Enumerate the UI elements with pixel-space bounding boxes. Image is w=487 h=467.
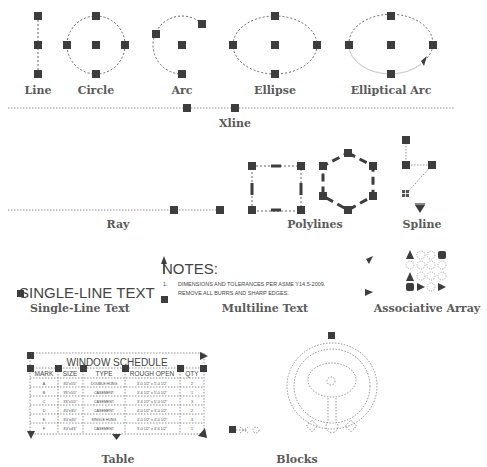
grip-icon[interactable] (402, 136, 410, 144)
grip-icon[interactable] (229, 41, 237, 49)
grip-icon[interactable] (152, 30, 160, 38)
grip-icon[interactable] (121, 41, 129, 49)
label-table: Table (101, 453, 134, 466)
multiline-text-object[interactable]: NOTES: 1. DIMENSIONS AND TOLERANCES PER … (161, 256, 373, 315)
grip-icon[interactable] (177, 365, 184, 372)
line-object[interactable]: Line (25, 12, 52, 97)
grip-icon[interactable] (216, 206, 224, 214)
arrow-down-grip-icon[interactable] (27, 431, 35, 439)
grip-icon[interactable] (406, 272, 414, 281)
grip-icon[interactable] (198, 20, 206, 28)
grip-icon[interactable] (438, 251, 446, 259)
arrow-right-grip-icon[interactable] (365, 289, 373, 296)
arrow-grip-icon[interactable] (421, 56, 427, 66)
grip-icon[interactable] (271, 12, 279, 20)
grip-icon[interactable] (92, 41, 100, 49)
label-xline: Xline (219, 117, 251, 130)
blocks-object[interactable]: Blocks (229, 332, 377, 466)
table-cell: 3'0"x4'0" (63, 418, 77, 422)
mtext-line1: DIMENSIONS AND TOLERANCES PER ASME Y14.5… (178, 281, 326, 287)
grip-icon[interactable] (161, 296, 168, 303)
grip-icon[interactable] (178, 41, 186, 49)
polyline-rectangle-object[interactable] (248, 162, 305, 214)
grip-icon[interactable] (229, 426, 236, 433)
table-object[interactable]: WINDOW SCHEDULE MARK SIZE TYPE ROUGH OPE… (27, 352, 208, 466)
grip-icon[interactable] (313, 41, 321, 49)
table-cell: SINGLE HUNG (92, 418, 117, 422)
grip-icon[interactable] (34, 41, 42, 49)
grip-icon[interactable] (387, 70, 395, 78)
grip-icon[interactable] (297, 206, 305, 214)
table-cell: D (43, 409, 46, 413)
table-cell: 4'-0 1/2" x 3'-0 1/2" (137, 409, 168, 413)
grip-icon[interactable] (344, 206, 352, 214)
table-cell: 1 (191, 427, 193, 431)
grip-icon[interactable] (55, 365, 62, 372)
grip-icon[interactable] (34, 12, 42, 20)
grip-icon[interactable] (402, 161, 410, 169)
resize-grip-icon[interactable] (198, 428, 207, 438)
circle-object[interactable]: Circle (63, 12, 129, 97)
grip-icon[interactable] (428, 161, 436, 169)
grip-icon[interactable] (417, 283, 425, 291)
grip-icon[interactable] (92, 12, 100, 20)
grip-icon[interactable] (200, 365, 207, 372)
label-blocks: Blocks (276, 453, 317, 466)
grip-icon[interactable] (231, 104, 239, 112)
label-arc: Arc (170, 84, 192, 97)
grip-icon[interactable] (271, 70, 279, 78)
grip-icon[interactable] (271, 41, 279, 49)
grip-icon[interactable] (429, 41, 437, 49)
table-cell: DOUBLE HUNG (91, 382, 118, 386)
triangle-grip-icon[interactable] (415, 205, 425, 213)
grip-icon[interactable] (319, 162, 327, 170)
grip-icon[interactable] (319, 192, 327, 200)
table-cell: 2 (191, 409, 193, 413)
grip-icon[interactable] (122, 365, 129, 372)
table-cell: F (43, 427, 46, 431)
elliptical-arc-object[interactable]: Elliptical Arc (345, 12, 437, 97)
associative-array-object[interactable]: Associative Array (373, 250, 481, 315)
grip-icon[interactable] (80, 365, 87, 372)
single-line-text-object[interactable]: SINGLE-LINE TEXT Single-Line Text (17, 284, 155, 315)
grip-icon[interactable] (63, 41, 71, 49)
grip-icon[interactable] (438, 283, 446, 291)
table-cell: B (43, 391, 46, 395)
grip-icon[interactable] (34, 70, 42, 78)
arrow-grip-icon[interactable] (366, 256, 373, 264)
table-header: TYPE (96, 370, 114, 377)
grip-icon[interactable] (248, 206, 256, 214)
grip-icon[interactable] (297, 162, 305, 170)
grip-icon[interactable] (183, 104, 191, 112)
grip-icon[interactable] (27, 365, 34, 372)
table-cell: 3'6"x5'0" (63, 400, 77, 404)
grip-icon[interactable] (387, 41, 395, 49)
grip-icon[interactable] (328, 332, 335, 339)
table-cell: E (43, 418, 46, 422)
grip-icon[interactable] (248, 162, 256, 170)
autocad-object-gallery: Line Circle Arc Ellipse (0, 0, 487, 467)
grip-icon[interactable] (17, 290, 24, 297)
grip-icon[interactable] (369, 192, 377, 200)
ray-object[interactable]: Ray (8, 206, 224, 231)
arc-object[interactable]: Arc (152, 16, 206, 97)
grip-icon[interactable] (178, 70, 186, 78)
ellipse-object[interactable]: Ellipse (229, 12, 321, 97)
mtext-line1-number: 1. (163, 281, 168, 287)
grip-icon[interactable] (345, 41, 353, 49)
arrow-down-grip-icon[interactable] (112, 434, 121, 440)
spline-object[interactable]: Spline (402, 136, 442, 231)
table-cell: CASEMENT (94, 409, 115, 413)
grip-icon[interactable] (170, 206, 178, 214)
xline-object[interactable]: Xline (8, 104, 455, 130)
label-polylines: Polylines (287, 218, 342, 231)
grip-icon[interactable] (92, 70, 100, 78)
table-cell: 3'-6 1/2" x 5'-0 1/2" (137, 400, 168, 404)
grip-icon[interactable] (27, 352, 34, 359)
grip-icon[interactable] (387, 12, 395, 20)
grip-icon[interactable] (344, 149, 352, 157)
grip-icon[interactable] (406, 283, 414, 291)
table-cell: 3'0"x5'0" (63, 382, 77, 386)
grip-icon[interactable] (406, 250, 414, 259)
grip-icon[interactable] (369, 162, 377, 170)
